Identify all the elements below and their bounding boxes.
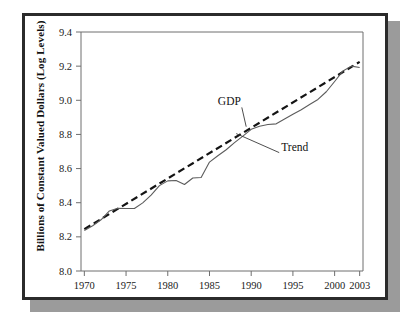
x-tick-label: 1970 — [74, 280, 95, 291]
y-tick-label: 8.6 — [59, 163, 72, 174]
series-gdp-line — [84, 66, 359, 230]
y-tick-label: 8.0 — [59, 266, 72, 277]
y-tick-label: 9.0 — [59, 95, 72, 106]
annotation-label-gdp: GDP — [218, 95, 241, 107]
x-tick-label: 2000 — [324, 280, 345, 291]
y-axis-tick-group: 8.08.28.48.68.89.09.29.4 — [59, 27, 81, 277]
y-tick-label: 9.2 — [59, 61, 72, 72]
annotation-leader-line — [236, 134, 279, 153]
y-tick-label: 8.4 — [59, 197, 73, 208]
series-trend-line — [84, 62, 359, 229]
x-axis-tick-group: 19701975198019851990199520002003 — [74, 271, 370, 291]
y-axis-title: Billions of Constant Valued Dollars (Log… — [34, 11, 46, 261]
y-tick-label: 8.8 — [59, 129, 72, 140]
annotation-leader-line — [242, 107, 246, 126]
x-tick-label: 1980 — [157, 280, 178, 291]
x-tick-label: 1975 — [116, 280, 137, 291]
annotation-label-trend: Trend — [281, 141, 308, 153]
y-tick-label: 9.4 — [59, 27, 73, 38]
annotation-group: GDPTrend — [218, 95, 309, 152]
figure-border-frame: 8.08.28.48.68.89.09.29.4 197019751980198… — [22, 13, 388, 300]
figure-root: 8.08.28.48.68.89.09.29.4 197019751980198… — [0, 0, 405, 320]
y-tick-label: 8.2 — [59, 231, 72, 242]
x-tick-label: 1990 — [241, 280, 262, 291]
x-tick-label: 1995 — [282, 280, 303, 291]
x-tick-label: 2003 — [349, 280, 370, 291]
x-tick-label: 1985 — [199, 280, 220, 291]
chart-plot-area: 8.08.28.48.68.89.09.29.4 197019751980198… — [25, 16, 385, 297]
gdp-trend-line-chart: 8.08.28.48.68.89.09.29.4 197019751980198… — [25, 16, 385, 297]
